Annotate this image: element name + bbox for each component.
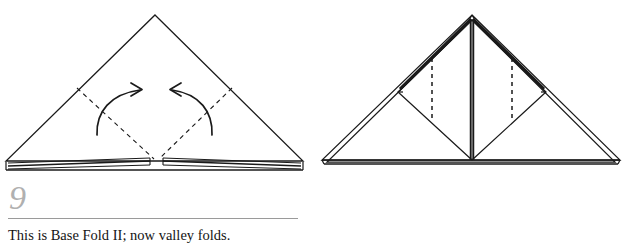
step-panel-10: 10 Valley folds.: [314, 0, 628, 248]
right-upper-thick-edge: [473, 19, 544, 89]
layered-bottom-edge: [6, 158, 303, 170]
step-number-9: 9: [9, 181, 26, 215]
valley-crease-lines: [77, 88, 232, 159]
step-divider-rule-9: [8, 218, 298, 219]
right-flap-outline: [472, 20, 546, 160]
step-panel-9: 9 This is Base Fold II; now valley folds…: [0, 0, 314, 248]
diagram-step-9: [0, 0, 314, 178]
step-caption-9: This is Base Fold II; now valley folds.: [8, 226, 230, 245]
left-arrow-head: [131, 83, 142, 96]
diagram-step-10: [314, 0, 628, 178]
folded-result-diagram: [314, 0, 628, 178]
center-spine: [471, 20, 474, 160]
instruction-page: 9 This is Base Fold II; now valley folds…: [0, 0, 628, 248]
left-flap-outline: [398, 20, 472, 160]
base-fold-two-diagram: [0, 0, 314, 178]
fold-motion-arrows: [97, 90, 212, 135]
left-upper-thick-edge: [400, 19, 471, 89]
right-arrow-head: [170, 83, 181, 96]
triangle-outline: [6, 15, 303, 161]
